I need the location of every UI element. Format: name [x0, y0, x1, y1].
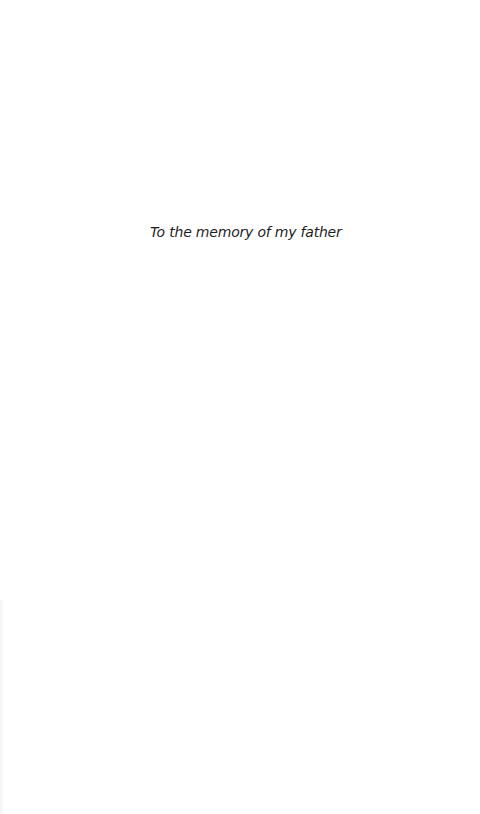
book-page: To the memory of my father — [0, 0, 480, 814]
dedication-text: To the memory of my father — [150, 224, 342, 240]
page-edge-shadow — [0, 600, 4, 814]
